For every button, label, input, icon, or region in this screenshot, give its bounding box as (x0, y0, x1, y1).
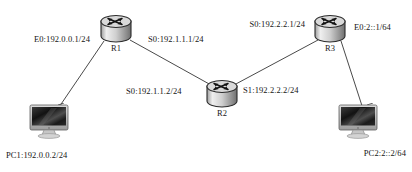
pc-node-pc1[interactable] (28, 103, 74, 141)
host-label-pc2: PC2:2::2/64 (364, 148, 406, 158)
computer-icon (337, 103, 383, 141)
link-r3-pc2 (341, 41, 364, 112)
link-r2-r3 (234, 40, 318, 85)
router-node-r1[interactable] (99, 14, 133, 44)
network-topology-diagram: R1R2R3PC1:192.0.0.2/24PC2:2::2/64E0:192.… (0, 0, 412, 172)
computer-icon (28, 103, 74, 141)
router-label-r2: R2 (217, 108, 227, 118)
host-label-pc1: PC1:192.0.0.2/24 (6, 150, 67, 160)
interface-label-r2-s0: S0:192.1.1.2/24 (126, 86, 182, 96)
interface-label-r1-e0: E0:192.0.0.1/24 (34, 34, 90, 44)
router-icon (99, 14, 133, 44)
interface-label-r3-s0: S0:192.2.2.1/24 (249, 19, 305, 29)
router-node-r3[interactable] (313, 14, 347, 44)
interface-label-r3-e0: E0:2::1/64 (354, 22, 391, 32)
router-label-r1: R1 (111, 43, 121, 53)
router-label-r3: R3 (325, 43, 335, 53)
router-icon (205, 79, 239, 109)
pc-node-pc2[interactable] (337, 103, 383, 141)
link-r1-r2 (130, 40, 211, 85)
router-icon (313, 14, 347, 44)
interface-label-r1-s0: S0:192.1.1.1/24 (148, 34, 204, 44)
interface-label-r2-s1: S1:192.2.2.2/24 (243, 85, 299, 95)
router-node-r2[interactable] (205, 79, 239, 109)
